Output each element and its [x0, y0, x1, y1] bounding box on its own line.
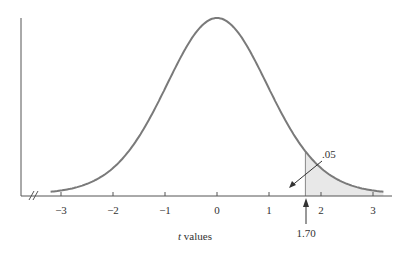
x-axis-label: t values — [178, 230, 212, 242]
x-tick-label: 2 — [318, 204, 324, 216]
t-distribution-chart: −3−2−10123 .05 1.70 t values — [0, 0, 411, 256]
x-tick-label: 1 — [266, 204, 272, 216]
x-tick-label: −1 — [159, 204, 171, 216]
density-curve — [51, 18, 384, 192]
critical-value-label: 1.70 — [296, 227, 316, 239]
arrowhead-icon — [289, 181, 296, 188]
arrowhead-up-icon — [303, 198, 309, 207]
x-tick-label: −3 — [55, 204, 67, 216]
tail-area-label: .05 — [322, 148, 336, 160]
x-tick-label: −2 — [107, 204, 119, 216]
x-tick-label: 3 — [370, 204, 376, 216]
x-tick-label: 0 — [214, 204, 220, 216]
